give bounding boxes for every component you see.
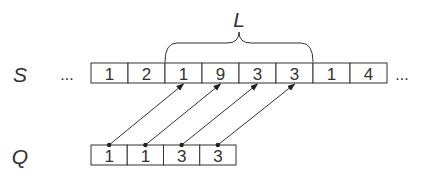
q-cell-value: 3 xyxy=(177,147,186,166)
q-cell-value: 1 xyxy=(141,147,150,166)
s-sequence-label: S xyxy=(13,63,27,86)
s-cell: 1 xyxy=(165,63,202,84)
length-brace: L xyxy=(165,8,313,63)
s-cell: 3 xyxy=(276,63,313,84)
mapping-arrow xyxy=(107,84,184,147)
s-cell: 2 xyxy=(128,63,165,84)
arrow-line xyxy=(182,84,258,145)
q-cell: 3 xyxy=(164,145,200,166)
arrow-origin-dot xyxy=(143,143,147,147)
arrow-line xyxy=(218,84,295,145)
ellipsis-left: ... xyxy=(60,66,73,83)
mapping-arrow xyxy=(143,84,220,147)
s-cell: 4 xyxy=(350,63,387,84)
diagram-canvas: S Q ... ... 12193314 1133 L xyxy=(0,0,422,177)
s-cell-value: 1 xyxy=(105,65,114,84)
q-cell: 1 xyxy=(127,145,163,166)
s-cell-value: 1 xyxy=(179,65,188,84)
s-cell: 9 xyxy=(202,63,239,84)
s-cell-value: 3 xyxy=(253,65,262,84)
q-cell: 3 xyxy=(200,145,236,166)
q-cell-value: 1 xyxy=(104,147,113,166)
s-cell-value: 3 xyxy=(290,65,299,84)
s-cell: 1 xyxy=(91,63,128,84)
mapping-arrows xyxy=(107,84,295,147)
arrow-origin-dot xyxy=(107,143,111,147)
s-array: 12193314 xyxy=(91,63,387,84)
q-cell: 1 xyxy=(91,145,127,166)
q-array: 1133 xyxy=(91,145,236,166)
brace-shape xyxy=(165,32,313,62)
s-cell-value: 2 xyxy=(142,65,151,84)
ellipsis-right: ... xyxy=(395,66,408,83)
arrow-origin-dot xyxy=(179,143,183,147)
brace-label: L xyxy=(233,8,245,31)
s-cell-value: 9 xyxy=(216,65,225,84)
s-cell-value: 1 xyxy=(327,65,336,84)
q-cell-value: 3 xyxy=(213,147,222,166)
arrow-line xyxy=(145,84,220,145)
s-cell: 1 xyxy=(313,63,350,84)
q-sequence-label: Q xyxy=(12,145,28,168)
mapping-arrow xyxy=(179,84,257,147)
s-cell: 3 xyxy=(239,63,276,84)
s-cell-value: 4 xyxy=(364,65,373,84)
arrow-origin-dot xyxy=(216,143,220,147)
arrow-line xyxy=(109,84,183,145)
mapping-arrow xyxy=(216,84,295,147)
